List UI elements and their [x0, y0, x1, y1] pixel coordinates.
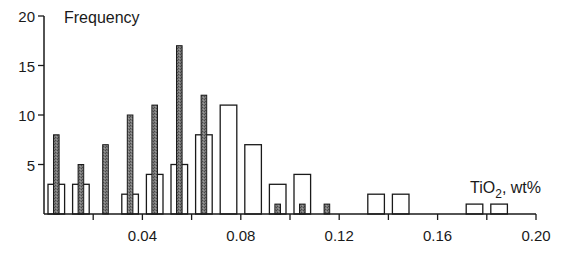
y-tick-label: 15 — [18, 58, 35, 75]
x-tick-label: 0.08 — [226, 227, 255, 244]
shaded-bar — [54, 135, 60, 214]
open-bar — [392, 194, 409, 214]
x-axis: 0.040.080.120.160.20 — [44, 214, 551, 244]
shaded-bars — [54, 46, 330, 214]
x-axis-title-rest: , wt% — [502, 179, 541, 196]
open-bar — [245, 145, 262, 214]
y-axis: 5101520 — [18, 8, 44, 214]
x-tick-label: 0.16 — [423, 227, 452, 244]
shaded-bar — [275, 204, 281, 214]
open-bars — [48, 105, 507, 214]
y-tick-label: 10 — [18, 107, 35, 124]
shaded-bar — [300, 204, 306, 214]
open-bar — [466, 204, 483, 214]
open-bar — [220, 105, 237, 214]
shaded-bar — [152, 105, 158, 214]
y-tick-label: 20 — [18, 8, 35, 25]
x-tick-label: 0.04 — [128, 227, 157, 244]
y-axis-title: Frequency — [64, 9, 140, 26]
x-tick-label: 0.12 — [325, 227, 354, 244]
shaded-bar — [201, 95, 207, 214]
y-tick-label: 5 — [27, 157, 35, 174]
shaded-bar — [103, 145, 109, 214]
histogram-chart: 5101520 0.040.080.120.160.20 Frequency T… — [0, 0, 566, 261]
x-tick-label: 0.20 — [521, 227, 550, 244]
shaded-bar — [177, 46, 183, 214]
x-axis-title: TiO2, wt% — [470, 179, 541, 201]
open-bar — [368, 194, 385, 214]
shaded-bar — [324, 204, 330, 214]
shaded-bar — [78, 165, 84, 215]
shaded-bar — [127, 115, 133, 214]
x-axis-title-main: TiO — [470, 179, 495, 196]
open-bar — [491, 204, 508, 214]
